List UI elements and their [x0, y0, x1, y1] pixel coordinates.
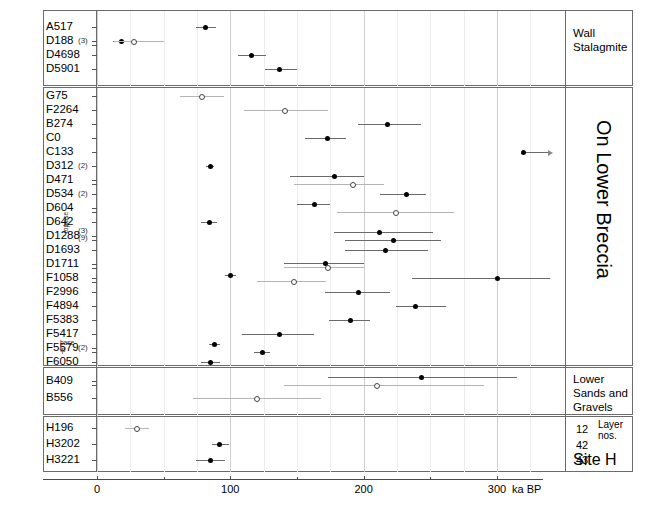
gridline-vertical: [164, 88, 165, 366]
error-bar-f4894: [396, 306, 447, 307]
data-point-f1058-filled: [228, 273, 233, 278]
row-sublabel-f5579-tp: tp: [60, 347, 65, 354]
gridline-vertical: [497, 368, 498, 415]
error-bar-d1711: [284, 267, 364, 268]
gridline-vertical: [464, 417, 465, 472]
error-bar-b409: [284, 385, 484, 386]
row-label-d1693: D1693: [46, 244, 80, 256]
gridline-vertical: [130, 11, 131, 86]
y-tick-f5383: [92, 320, 97, 321]
gridline-vertical: [297, 88, 298, 366]
x-tick-label-0: 0: [77, 484, 117, 495]
gridline-vertical: [364, 368, 365, 415]
row-label-d534: D534: [46, 188, 74, 200]
gridline-vertical: [330, 88, 331, 366]
gridline-vertical: [264, 417, 265, 472]
data-point-d1693-filled: [383, 248, 388, 253]
y-tick-d471-b: [92, 184, 97, 185]
y-tick-d5901: [92, 69, 97, 70]
error-bar-c133: [524, 152, 551, 153]
data-point-d642-filled: [207, 220, 212, 225]
y-tick-f6050: [92, 362, 97, 363]
data-point-b409-open: [374, 383, 380, 389]
row-label-f6050: F6050: [46, 356, 79, 368]
data-point-f5383-filled: [348, 318, 353, 323]
data-point-f2996-filled: [356, 290, 361, 295]
data-point-g75-open: [199, 94, 205, 100]
x-tick-major: [230, 476, 231, 480]
data-point-f2264-open: [282, 108, 288, 114]
gridline-vertical: [230, 88, 231, 366]
row-count-annotation-d534-2: (2): [78, 190, 88, 198]
row-label-f5417: F5417: [46, 328, 79, 340]
y-tick-f4894: [92, 306, 97, 307]
gridline-vertical: [330, 417, 331, 472]
y-tick-d1711-b: [92, 268, 97, 269]
error-bar-d471: [294, 184, 383, 185]
row-label-a517: A517: [46, 21, 73, 33]
y-tick-d4698: [92, 55, 97, 56]
row-label-c133: C133: [46, 146, 74, 158]
gridline-vertical: [397, 417, 398, 472]
data-point-h3221-filled: [208, 458, 213, 463]
gridline-vertical: [364, 11, 365, 86]
gridline-vertical: [97, 368, 98, 415]
panel-site-h: [43, 416, 633, 472]
gridline-vertical: [397, 368, 398, 415]
y-tick-d1288-b: [92, 240, 97, 241]
row-label-d4698: D4698: [46, 49, 80, 61]
y-tick-d534: [92, 194, 97, 195]
data-point-d604-open: [393, 210, 399, 216]
gridline-vertical: [230, 368, 231, 415]
gridline-vertical: [97, 417, 98, 472]
y-tick-d312: [92, 166, 97, 167]
panel-label-site-h: Site H: [573, 452, 617, 468]
data-point-d1288-filled: [391, 238, 396, 243]
gridline-vertical: [197, 11, 198, 86]
row-count-annotation-d188-0: (3): [78, 37, 88, 45]
y-tick-d188: [92, 41, 97, 42]
data-point-f6050-filled: [208, 360, 213, 365]
data-point-f1058-open: [291, 279, 297, 285]
gridline-vertical: [364, 417, 365, 472]
y-tick-d1288: [92, 236, 97, 237]
data-point-d312-filled: [208, 164, 213, 169]
row-label-f1058: F1058: [46, 272, 79, 284]
gridline-vertical: [430, 88, 431, 366]
x-tick-major: [497, 476, 498, 480]
figure-root: A517D188D4698D5901G75F2264B274C0C133D312…: [0, 0, 647, 513]
layer-no-42: 42: [576, 440, 588, 451]
gridline-vertical: [497, 88, 498, 366]
gridline-vertical: [197, 368, 198, 415]
row-label-g75: G75: [46, 90, 68, 102]
data-point-h196-open: [134, 426, 140, 432]
gridline-vertical: [530, 88, 531, 366]
gridline-vertical: [330, 368, 331, 415]
gridline-vertical: [430, 417, 431, 472]
row-label-d5901: D5901: [46, 63, 80, 75]
data-point-f5579-filled: [260, 350, 265, 355]
gridline-vertical: [364, 88, 365, 366]
y-tick-b274: [92, 124, 97, 125]
gridline-vertical: [164, 417, 165, 472]
x-axis-line: [43, 479, 543, 480]
y-tick-a517: [92, 27, 97, 28]
row-sublabel-d1288-top: top: [63, 224, 70, 233]
gridline-vertical: [464, 88, 465, 366]
y-tick-f2996: [92, 292, 97, 293]
panel-wall-stalagmite: [43, 10, 633, 86]
gridline-vertical: [130, 417, 131, 472]
y-tick-d642: [92, 222, 97, 223]
data-point-d188-open: [131, 39, 137, 45]
y-tick-h3202: [92, 444, 97, 445]
gridline-vertical: [130, 88, 131, 366]
row-count-annotation-d312-1: (2): [78, 162, 88, 170]
row-label-b556: B556: [46, 392, 73, 404]
panel-on-lower-breccia: [43, 87, 633, 366]
row-label-f2264: F2264: [46, 104, 79, 116]
gridline-vertical: [430, 368, 431, 415]
row-label-d188: D188: [46, 35, 74, 47]
data-point-f5579-filled: [212, 342, 217, 347]
y-tick-h3221: [92, 460, 97, 461]
gridline-vertical: [297, 11, 298, 86]
